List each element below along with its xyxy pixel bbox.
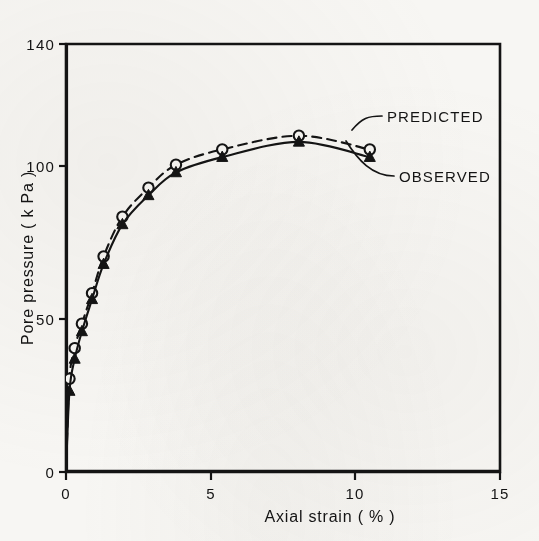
series-observed [64, 136, 375, 472]
annotation-observed: OBSERVED [399, 168, 491, 185]
series-line [66, 142, 370, 472]
xtick-label-15: 15 [490, 485, 509, 502]
ytick-label-0: 0 [45, 464, 55, 481]
xtick-label-0: 0 [61, 485, 71, 502]
x-axis-title: Axial strain ( % ) [265, 508, 396, 525]
series-line [66, 136, 370, 472]
chart-svg: 140 100 50 0 0 5 10 15 Axial strain ( % … [0, 0, 539, 541]
series-layer [64, 131, 375, 472]
data-point-filled-triangle [69, 353, 80, 363]
annotation-predicted: PREDICTED [387, 108, 484, 125]
y-axis-title: Pore pressure ( k Pa ) [19, 171, 36, 345]
series-predicted [64, 131, 375, 472]
ytick-label-50: 50 [36, 311, 55, 328]
xtick-label-10: 10 [345, 485, 364, 502]
ytick-label-140: 140 [26, 36, 55, 53]
xtick-label-5: 5 [206, 485, 216, 502]
figure-container: 140 100 50 0 0 5 10 15 Axial strain ( % … [0, 0, 539, 541]
